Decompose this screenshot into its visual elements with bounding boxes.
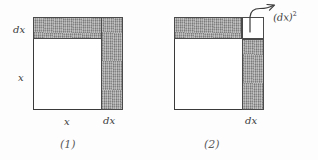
figure-2-caption: (2): [204, 139, 220, 150]
figure-1-label-dx-bottom: dx: [103, 116, 115, 126]
figure-2-dx-squared-annotation: (dx)2: [273, 11, 298, 24]
figure-1-right-shaded-strip: [101, 17, 123, 110]
figure-1-caption: (1): [60, 139, 76, 150]
figure-sheet: dx x x dx (1) (dx)2 dx (2): [0, 0, 318, 160]
figure-2-label-dx-bottom: dx: [245, 116, 257, 126]
figure-1-label-dx-left: dx: [13, 25, 25, 35]
figure-2-annotation-exponent: 2: [292, 10, 297, 18]
figure-1: dx x x dx (1): [0, 0, 159, 160]
figure-1-label-x-bottom: x: [64, 117, 70, 127]
figure-1-label-x-left: x: [18, 73, 24, 83]
figure-2: (dx)2 dx (2): [159, 0, 318, 160]
figure-2-right-shaded-strip: [242, 39, 264, 110]
figure-2-annotation-base: (dx): [273, 11, 293, 23]
figure-2-top-shaded-strip: [174, 17, 242, 39]
